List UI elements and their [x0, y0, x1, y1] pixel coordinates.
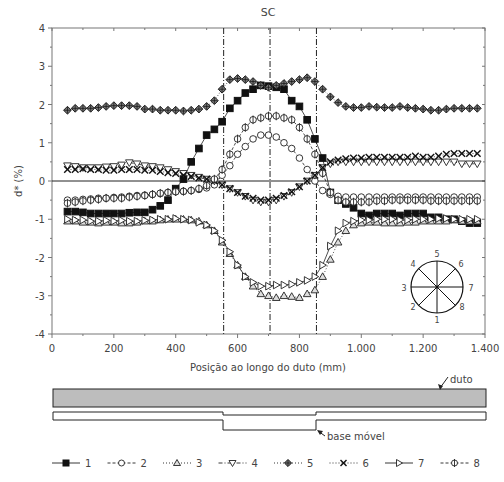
square-marker — [118, 210, 125, 217]
square-marker — [304, 117, 311, 124]
legend: 12345678 — [52, 458, 480, 469]
pipe-center — [436, 286, 439, 289]
x-tick-label: 400 — [166, 343, 185, 354]
square-marker — [141, 209, 148, 216]
inset-label-8: 8 — [459, 303, 464, 312]
triangle-right-marker — [304, 277, 311, 285]
circle-marker — [273, 134, 280, 141]
square-marker — [319, 155, 326, 162]
y-tick-label: 2 — [39, 100, 45, 111]
square-marker — [149, 206, 156, 213]
series-5 — [64, 74, 482, 115]
legend-label: 2 — [141, 458, 147, 469]
x-axis-label: Posição ao longo do duto (mm) — [190, 362, 346, 373]
inset-label-5: 5 — [434, 250, 439, 259]
square-marker — [111, 210, 118, 217]
inset-label-1: 1 — [434, 316, 439, 325]
circle-marker — [265, 132, 272, 139]
square-marker — [242, 90, 249, 97]
square-marker — [188, 159, 195, 166]
triangle-down-marker — [412, 159, 420, 166]
square-marker — [72, 208, 79, 215]
square-marker — [157, 203, 164, 210]
y-tick-label: 3 — [39, 61, 45, 72]
square-marker — [80, 209, 87, 216]
legend-label: 6 — [363, 458, 369, 469]
cross-section-inset: 12345678 — [401, 250, 473, 325]
triangle-down-marker — [458, 161, 466, 168]
inset-label-2: 2 — [410, 303, 415, 312]
circle-marker — [257, 132, 264, 139]
triangle-right-marker — [328, 242, 335, 250]
triangle-down-marker — [435, 159, 443, 166]
square-marker — [358, 210, 365, 217]
legend-label: 3 — [196, 458, 202, 469]
square-marker — [95, 210, 102, 217]
x-tick-label: 600 — [228, 343, 247, 354]
inset-label-6: 6 — [458, 260, 463, 269]
y-tick-label: 1 — [39, 138, 45, 149]
y-tick-label: 0 — [39, 176, 45, 187]
legend-item-2: 2 — [108, 458, 147, 469]
legend-item-4: 4 — [219, 458, 258, 469]
circle-marker — [227, 162, 234, 169]
inset-label-7: 7 — [468, 284, 473, 293]
triangle-up-marker — [288, 293, 296, 300]
triangle-up-marker — [272, 294, 280, 301]
triangle-down-marker — [229, 461, 236, 467]
triangle-right-marker — [397, 460, 403, 467]
triangle-down-marker — [443, 159, 451, 166]
triangle-right-marker — [273, 281, 280, 289]
square-marker — [134, 209, 141, 216]
square-marker — [87, 210, 94, 217]
circle-marker — [304, 166, 311, 173]
triangle-up-marker — [334, 238, 342, 245]
inset-label-4: 4 — [410, 260, 415, 269]
triangle-right-marker — [281, 281, 288, 289]
triangle-up-marker — [327, 256, 335, 263]
duct-bar — [53, 389, 486, 407]
circle-marker — [288, 145, 295, 152]
x-tick-label: 1.000 — [347, 343, 376, 354]
x-tick-label: 200 — [104, 343, 123, 354]
triangle-right-marker — [320, 261, 327, 269]
legend-item-8: 8 — [441, 458, 480, 469]
x-tick-label: 800 — [290, 343, 309, 354]
chart-figure: -4-3-2-10123402004006008001.0001.2001.40… — [0, 0, 504, 482]
duto-label: duto — [450, 374, 473, 385]
triangle-right-marker — [258, 282, 265, 290]
triangle-up-marker — [174, 460, 181, 466]
triangle-right-marker — [297, 279, 304, 287]
square-marker — [103, 210, 110, 217]
circle-marker — [234, 151, 241, 158]
triangle-right-marker — [343, 219, 350, 227]
x-tick-label: 1.200 — [409, 343, 438, 354]
movable-base — [53, 412, 486, 430]
legend-label: 8 — [474, 458, 480, 469]
triangle-up-marker — [342, 227, 350, 234]
triangle-up-marker — [296, 294, 304, 301]
y-tick-label: -2 — [35, 253, 45, 264]
triangle-right-marker — [266, 282, 273, 290]
triangle-down-marker — [466, 161, 474, 168]
inset-label-3: 3 — [401, 284, 406, 293]
square-marker — [250, 86, 257, 93]
square-marker — [165, 197, 172, 204]
square-marker — [63, 460, 69, 466]
y-tick-label: -4 — [35, 329, 45, 340]
circle-marker — [296, 155, 303, 162]
chart-title: SC — [261, 6, 276, 19]
legend-label: 4 — [252, 458, 258, 469]
circle-marker — [281, 139, 288, 146]
data-series — [64, 74, 482, 301]
circle-marker — [242, 143, 249, 150]
duct-schematic: duto base móvel — [53, 374, 486, 442]
square-marker — [126, 209, 133, 216]
triangle-up-marker — [303, 290, 311, 297]
circle-marker — [250, 136, 257, 143]
y-tick-label: -3 — [35, 291, 45, 302]
triangle-up-marker — [311, 286, 319, 293]
triangle-right-marker — [289, 280, 296, 288]
square-marker — [312, 136, 319, 143]
y-tick-label: 4 — [39, 23, 45, 34]
